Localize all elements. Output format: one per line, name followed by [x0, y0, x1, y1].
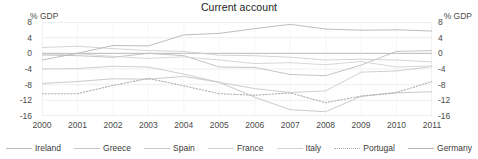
legend-label: Italy: [306, 144, 322, 153]
chart-figure: Current account % GDP % GDP 840-4-8-12-1…: [0, 0, 478, 159]
y-tick-label: 8: [27, 17, 32, 27]
legend-label: Greece: [103, 144, 131, 153]
legend-swatch-icon: [277, 148, 303, 149]
legend-swatch-icon: [334, 148, 360, 149]
plot-area: [42, 22, 432, 116]
legend-swatch-icon: [408, 148, 434, 149]
x-axis-labels: 2000200120022003200420052006200720082009…: [42, 120, 432, 132]
x-tick-label: 2008: [316, 120, 335, 130]
legend-swatch-icon: [74, 148, 100, 149]
y-axis-unit-left: % GDP: [30, 11, 58, 21]
y-tick-label: -16: [20, 111, 32, 121]
x-tick-label: 2000: [33, 120, 52, 130]
legend-item-france[interactable]: France: [208, 144, 263, 153]
y-tick-label: 4: [438, 33, 443, 43]
legend-item-portugal[interactable]: Portugal: [334, 144, 395, 153]
legend-swatch-icon: [208, 148, 234, 149]
legend-item-ireland[interactable]: Ireland: [6, 144, 61, 153]
legend-label: France: [237, 144, 263, 153]
legend-item-greece[interactable]: Greece: [74, 144, 131, 153]
y-axis-labels-right: 840-4-8-12-16: [438, 22, 454, 116]
y-tick-label: 0: [27, 48, 32, 58]
plot-svg: [42, 22, 432, 116]
x-tick-label: 2010: [387, 120, 406, 130]
x-tick-label: 2003: [139, 120, 158, 130]
chart-legend: IrelandGreeceSpainFranceItalyPortugalGer…: [0, 139, 478, 157]
legend-item-spain[interactable]: Spain: [144, 144, 195, 153]
legend-swatch-icon: [144, 148, 170, 149]
y-tick-label: 4: [27, 33, 32, 43]
y-tick-label: -8: [24, 80, 32, 90]
x-tick-label: 2011: [423, 120, 441, 130]
x-tick-label: 2002: [103, 120, 122, 130]
legend-swatch-icon: [6, 148, 32, 149]
legend-item-italy[interactable]: Italy: [277, 144, 322, 153]
x-tick-label: 2004: [174, 120, 193, 130]
x-tick-label: 2001: [68, 120, 87, 130]
y-tick-label: -12: [438, 95, 450, 105]
legend-label: Ireland: [35, 144, 61, 153]
y-tick-label: -4: [438, 64, 446, 74]
y-tick-label: -8: [438, 80, 446, 90]
x-tick-label: 2009: [352, 120, 371, 130]
y-tick-label: 8: [438, 17, 443, 27]
y-tick-label: -12: [20, 95, 32, 105]
legend-label: Portugal: [363, 144, 395, 153]
y-tick-label: -4: [24, 64, 32, 74]
chart-title: Current account: [0, 1, 478, 13]
y-axis-unit-right: % GDP: [444, 11, 472, 21]
legend-label: Spain: [173, 144, 195, 153]
y-axis-labels-left: 840-4-8-12-16: [16, 22, 32, 116]
y-tick-label: 0: [438, 48, 443, 58]
x-tick-label: 2005: [210, 120, 229, 130]
x-tick-label: 2006: [245, 120, 264, 130]
x-tick-label: 2007: [281, 120, 300, 130]
legend-item-germany[interactable]: Germany: [408, 144, 472, 153]
legend-label: Germany: [437, 144, 472, 153]
